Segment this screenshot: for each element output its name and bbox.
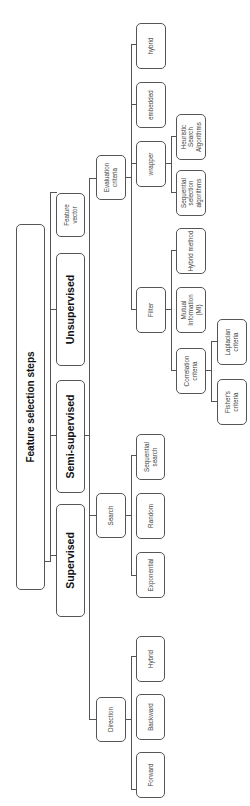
connector bbox=[131, 657, 132, 790]
mutual-information-node: Mutual Information (MI) bbox=[176, 287, 206, 333]
fishers-criteria-node: Fisher's criteria bbox=[217, 379, 247, 425]
exponential-node: Exponential bbox=[136, 552, 165, 598]
hybrid-method-node: Hybrid method bbox=[176, 228, 206, 274]
backward-node: Backward bbox=[136, 694, 165, 740]
semi-supervised-node: Semi-supervised bbox=[56, 380, 85, 493]
connector bbox=[171, 251, 172, 371]
embedded-node: embedded bbox=[136, 82, 166, 128]
direction-node: Direction bbox=[96, 697, 126, 742]
random-node: Random bbox=[136, 493, 165, 539]
laplacian-criteria-node: Laplacian criteria bbox=[217, 319, 247, 365]
hybrid-direction-node: Hybrid bbox=[136, 636, 165, 682]
supervised-node: Supervised bbox=[56, 504, 85, 617]
filter-node: Filter bbox=[136, 287, 166, 333]
connector bbox=[171, 137, 172, 193]
feature-vector-node: Feature vector bbox=[56, 193, 85, 237]
root-node: Feature selection steps bbox=[16, 224, 45, 590]
connector bbox=[50, 193, 51, 562]
evaluation-criteria-node: Evaluation criteria bbox=[96, 155, 126, 200]
connector bbox=[50, 192, 57, 193]
hybrid-eval-node: hybrid bbox=[136, 23, 166, 69]
connector bbox=[131, 456, 132, 576]
connector bbox=[131, 45, 132, 310]
correlation-criteria-node: Correlation criteria bbox=[176, 348, 206, 394]
connector bbox=[211, 342, 212, 402]
connector bbox=[89, 178, 90, 720]
wrapper-node: wrapper bbox=[136, 141, 166, 187]
sequential-search-node: Sequential search bbox=[136, 434, 165, 480]
forward-node: Forward bbox=[136, 752, 165, 798]
sequential-selection-node: Sequential selection algorithms bbox=[176, 170, 206, 216]
unsupervised-node: Unsupervised bbox=[56, 253, 85, 366]
feature-selection-diagram: Feature selection steps Supervised Semi-… bbox=[0, 0, 250, 806]
connector bbox=[85, 435, 90, 436]
heuristic-search-node: Heuristic Search Algorithms bbox=[176, 114, 206, 160]
search-node: Search bbox=[96, 493, 126, 538]
